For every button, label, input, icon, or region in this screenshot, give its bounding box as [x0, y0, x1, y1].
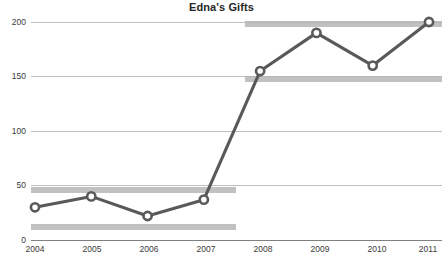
chart-container: Edna's Gifts 200 150 100 50 0 2004 2005 … [0, 0, 443, 267]
data-point-marker [87, 192, 95, 200]
data-point-marker [200, 196, 208, 204]
data-point-marker [256, 67, 264, 75]
series-line-gifts [35, 22, 429, 216]
data-point-marker [312, 29, 320, 37]
series-markers [31, 18, 433, 220]
plot-area: 200 150 100 50 0 2004 2005 2006 2007 200… [0, 0, 443, 267]
series-layer [0, 0, 443, 267]
data-point-marker [425, 18, 433, 26]
data-point-marker [369, 62, 377, 70]
data-point-marker [143, 212, 151, 220]
data-point-marker [31, 203, 39, 211]
